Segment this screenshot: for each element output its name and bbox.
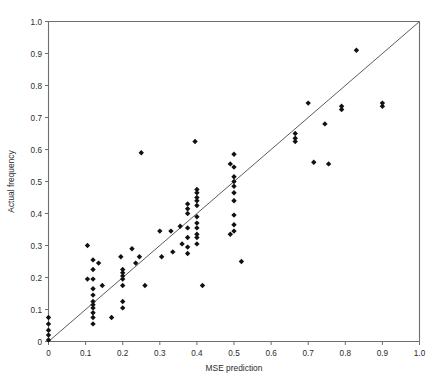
y-tick-label: 0.2 xyxy=(31,274,43,283)
x-tick-label: 0.1 xyxy=(80,349,92,358)
x-tick-label: 0.4 xyxy=(191,349,203,358)
data-point xyxy=(157,228,162,233)
data-point xyxy=(109,315,114,320)
data-point xyxy=(46,332,51,337)
data-point xyxy=(231,164,236,169)
data-point xyxy=(228,232,233,237)
y-tick-label: 0.4 xyxy=(31,210,43,219)
data-point xyxy=(322,121,327,126)
y-tick-label: 0.7 xyxy=(31,114,43,123)
data-point xyxy=(100,283,105,288)
data-point xyxy=(120,283,125,288)
data-point xyxy=(179,241,184,246)
x-tick-label: 0.9 xyxy=(377,349,389,358)
data-point xyxy=(194,225,199,230)
data-point xyxy=(90,315,95,320)
data-point xyxy=(85,276,90,281)
data-point xyxy=(90,286,95,291)
data-point xyxy=(231,152,236,157)
y-tick-label: 0.5 xyxy=(31,178,43,187)
data-point xyxy=(96,260,101,265)
x-tick-label: 0 xyxy=(46,349,51,358)
data-point-group xyxy=(46,48,385,343)
x-tick-label: 0.8 xyxy=(340,349,352,358)
data-point xyxy=(293,139,298,144)
data-point xyxy=(90,267,95,272)
data-point xyxy=(231,190,236,195)
data-point xyxy=(159,254,164,259)
data-point xyxy=(185,211,190,216)
data-point xyxy=(354,48,359,53)
data-point xyxy=(231,184,236,189)
data-point xyxy=(194,203,199,208)
data-point xyxy=(339,107,344,112)
data-point xyxy=(120,299,125,304)
x-tick-label: 1.0 xyxy=(414,349,426,358)
data-point xyxy=(90,305,95,310)
data-point xyxy=(142,283,147,288)
data-point xyxy=(90,292,95,297)
y-tick-label: 0.8 xyxy=(31,82,43,91)
x-axis-title: MSE prediction xyxy=(206,363,263,373)
y-tick-label: 0 xyxy=(37,338,42,347)
x-tick-label: 0.6 xyxy=(265,349,277,358)
data-point xyxy=(185,225,190,230)
data-point xyxy=(185,201,190,206)
x-tick-label: 0.7 xyxy=(303,349,315,358)
data-point xyxy=(194,220,199,225)
data-point xyxy=(326,161,331,166)
y-tick-label: 0.9 xyxy=(31,50,43,59)
scatter-chart-figure: 00.10.20.30.40.50.60.70.80.91.000.10.20.… xyxy=(0,0,436,385)
data-point xyxy=(120,276,125,281)
data-point xyxy=(168,228,173,233)
data-point xyxy=(46,315,51,320)
y-axis-title: Actual frequency xyxy=(6,149,16,212)
y-tick-label: 1.0 xyxy=(31,18,43,27)
data-point xyxy=(293,131,298,136)
data-point xyxy=(185,244,190,249)
data-point xyxy=(194,241,199,246)
data-point xyxy=(137,254,142,259)
y-tick-label: 0.6 xyxy=(31,146,43,155)
data-point xyxy=(85,243,90,248)
data-point xyxy=(231,228,236,233)
data-point xyxy=(90,310,95,315)
data-point xyxy=(120,305,125,310)
data-point xyxy=(170,249,175,254)
y-tick-label: 0.1 xyxy=(31,306,43,315)
data-point xyxy=(194,235,199,240)
data-point xyxy=(231,198,236,203)
data-point xyxy=(194,190,199,195)
x-tick-label: 0.2 xyxy=(117,349,129,358)
data-point xyxy=(239,259,244,264)
data-point xyxy=(306,100,311,105)
data-point xyxy=(194,198,199,203)
data-point xyxy=(185,251,190,256)
chart-canvas: 00.10.20.30.40.50.60.70.80.91.000.10.20.… xyxy=(0,0,436,385)
data-point xyxy=(185,206,190,211)
data-point xyxy=(129,246,134,251)
x-tick-label: 0.5 xyxy=(228,349,240,358)
data-point xyxy=(311,160,316,165)
x-tick-label: 0.3 xyxy=(154,349,166,358)
data-point xyxy=(46,328,51,333)
data-point xyxy=(231,174,236,179)
data-point xyxy=(90,276,95,281)
data-point xyxy=(231,222,236,227)
data-point xyxy=(200,283,205,288)
data-point xyxy=(178,224,183,229)
data-point xyxy=(90,321,95,326)
data-point xyxy=(185,235,190,240)
data-point xyxy=(231,212,236,217)
data-point xyxy=(46,321,51,326)
data-point xyxy=(380,104,385,109)
data-point xyxy=(228,161,233,166)
data-point xyxy=(139,150,144,155)
data-point xyxy=(90,257,95,262)
y-tick-label: 0.3 xyxy=(31,242,43,251)
data-point xyxy=(192,139,197,144)
data-point xyxy=(118,254,123,259)
